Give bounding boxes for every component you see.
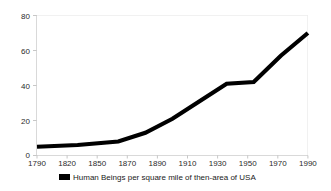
x-axis-tick-label-1930: 1930 (209, 159, 227, 168)
x-axis-tick-label-1970: 1970 (269, 159, 287, 168)
y-axis-tick-label-80: 80 (21, 12, 30, 21)
y-axis-tick-label-40: 40 (21, 82, 30, 91)
x-axis-tick-label-1950: 1950 (239, 159, 257, 168)
y-axis-tick-label-60: 60 (21, 47, 30, 56)
x-axis-tick-label-1870: 1870 (118, 159, 136, 168)
x-axis-tick-label-1790: 1790 (28, 159, 46, 168)
legend-entry-label: Human Beings per square mile of then-are… (73, 173, 256, 182)
x-axis-tick-label-1850: 1850 (88, 159, 106, 168)
y-axis-tick-label-20: 20 (21, 117, 30, 126)
x-axis-tick-label-1890: 1890 (149, 159, 167, 168)
chart-container: 0 20 40 60 80 1790 1820 1850 1870 1890 1… (0, 0, 331, 191)
x-axis-tick-label-1820: 1820 (58, 159, 76, 168)
legend-swatch-icon (59, 174, 70, 180)
plot-area-background (36, 15, 308, 155)
x-axis-tick-label-1910: 1910 (179, 159, 197, 168)
x-axis-tick-label-1990: 1990 (299, 159, 317, 168)
line-chart: 0 20 40 60 80 1790 1820 1850 1870 1890 1… (0, 0, 331, 191)
